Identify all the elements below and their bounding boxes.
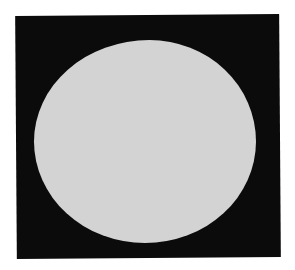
gray-disc [34, 40, 256, 243]
